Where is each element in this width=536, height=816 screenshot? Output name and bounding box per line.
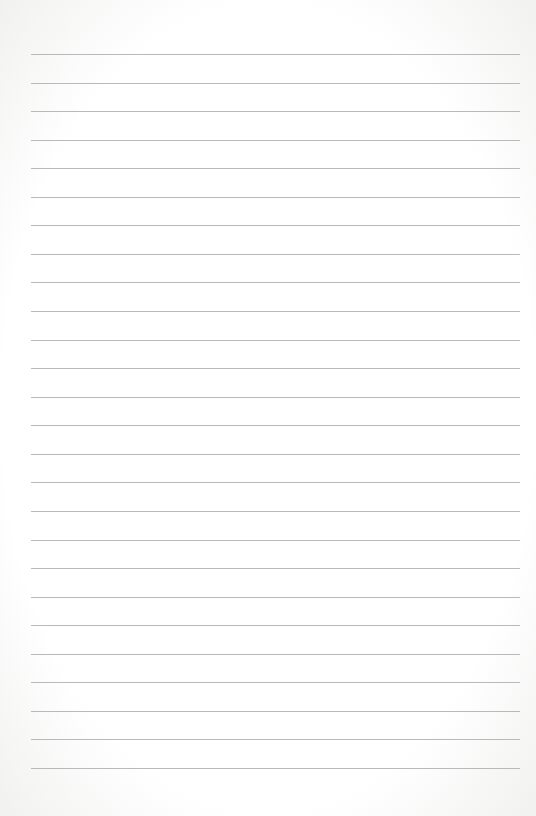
ruled-line — [31, 340, 520, 341]
ruled-line — [31, 168, 520, 169]
ruled-line — [31, 739, 520, 740]
ruled-line — [31, 54, 520, 55]
ruled-line — [31, 625, 520, 626]
ruled-line — [31, 711, 520, 712]
ruled-line — [31, 225, 520, 226]
ruled-line — [31, 654, 520, 655]
ruled-line — [31, 568, 520, 569]
ruled-line — [31, 540, 520, 541]
ruled-line — [31, 768, 520, 769]
ruled-line — [31, 511, 520, 512]
ruled-line — [31, 254, 520, 255]
ruled-line — [31, 597, 520, 598]
ruled-line — [31, 282, 520, 283]
ruled-line — [31, 140, 520, 141]
ruled-line — [31, 682, 520, 683]
ruled-line — [31, 482, 520, 483]
lined-paper-sheet — [0, 0, 536, 816]
ruled-line — [31, 83, 520, 84]
ruled-line — [31, 425, 520, 426]
ruled-line — [31, 197, 520, 198]
ruled-line — [31, 397, 520, 398]
ruled-line — [31, 454, 520, 455]
ruled-line — [31, 111, 520, 112]
ruled-line — [31, 368, 520, 369]
ruled-line — [31, 311, 520, 312]
